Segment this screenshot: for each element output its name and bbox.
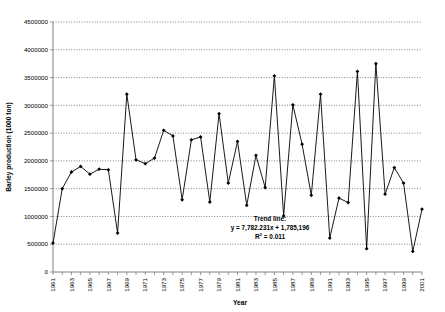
x-tick-label: 1969 — [123, 277, 130, 291]
x-tick-label: 1975 — [178, 277, 185, 291]
y-tick-label: 4500000 — [24, 18, 49, 25]
x-tick-label: 1961 — [49, 277, 56, 291]
y-tick-label: 1500000 — [24, 185, 49, 192]
y-tick-label: 4000000 — [24, 46, 49, 53]
x-tick-label: 1991 — [326, 277, 333, 291]
trendline-annotation-label: Trend line: — [254, 215, 286, 222]
x-tick-label: 2001 — [418, 277, 425, 291]
y-tick-label: 500000 — [27, 240, 48, 247]
y-tick-label: 0 — [45, 268, 49, 275]
x-tick-label: 1963 — [68, 277, 75, 291]
y-axis-title: Barley production (1000 ton) — [5, 102, 13, 191]
x-tick-label: 1985 — [271, 277, 278, 291]
x-tick-label: 1965 — [86, 277, 93, 291]
x-tick-label: 1971 — [141, 277, 148, 291]
x-tick-label: 1993 — [344, 277, 351, 291]
y-tick-label: 3500000 — [24, 74, 49, 81]
y-tick-label: 2000000 — [24, 157, 49, 164]
x-tick-label: 1983 — [252, 277, 259, 291]
x-tick-label: 1997 — [381, 277, 388, 291]
chart-background — [0, 0, 445, 312]
x-tick-label: 1979 — [215, 277, 222, 291]
x-axis-title: Year — [233, 299, 247, 306]
trendline-r2: R2 = 0.011 — [255, 232, 285, 240]
x-tick-label-group: 1961196319651967196919711973197519771979… — [49, 277, 425, 291]
x-tick-label: 1989 — [308, 277, 315, 291]
x-tick-label: 1995 — [363, 277, 370, 291]
y-tick-label: 2500000 — [24, 129, 49, 136]
x-tick-label: 1987 — [289, 277, 296, 291]
x-tick-group — [53, 272, 422, 275]
trendline-equation: y = 7,782.231x + 1,785,196 — [231, 224, 310, 232]
r2-value: = 0.011 — [262, 233, 285, 240]
chart-container: 0500000100000015000002000000250000030000… — [0, 0, 445, 312]
x-tick-label: 1981 — [234, 277, 241, 291]
y-tick-label: 3000000 — [24, 102, 49, 109]
x-tick-label: 1977 — [197, 277, 204, 291]
x-tick-label: 1967 — [105, 277, 112, 291]
x-tick-label: 1973 — [160, 277, 167, 291]
y-tick-label: 1000000 — [24, 213, 49, 220]
x-tick-label: 1999 — [400, 277, 407, 291]
barley-production-line-chart: 0500000100000015000002000000250000030000… — [0, 0, 445, 312]
